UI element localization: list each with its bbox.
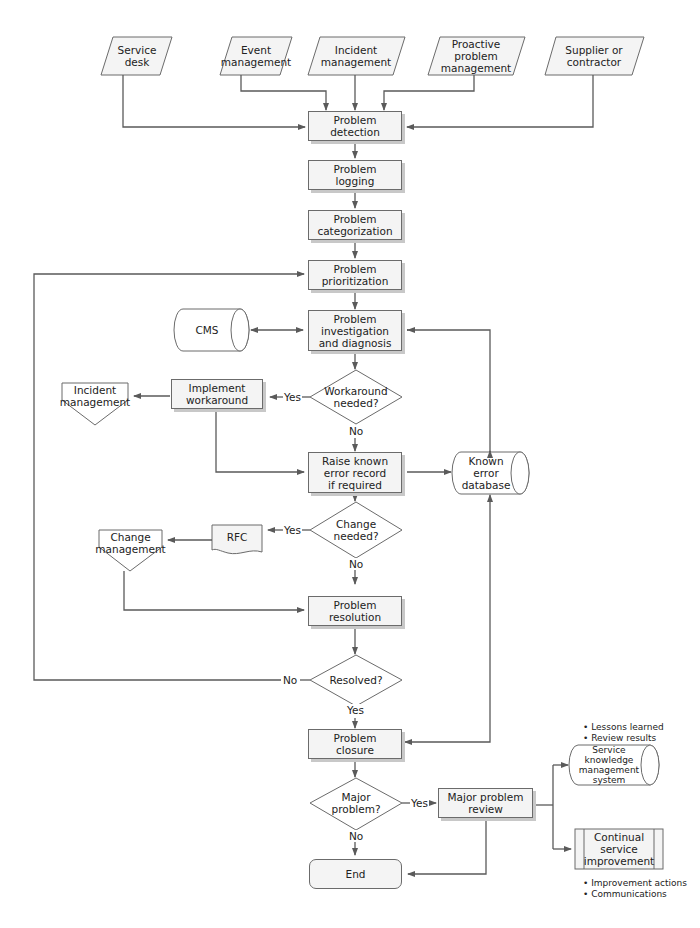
branch-no-change: No: [348, 558, 364, 570]
process-problem-investigation[interactable]: Problem investigation and diagnosis: [308, 310, 402, 351]
branch-yes-resolved: Yes: [346, 704, 365, 716]
document-rfc[interactable]: RFC: [212, 527, 262, 547]
offpage-change-management[interactable]: Change management: [96, 531, 165, 555]
branch-yes-change: Yes: [283, 524, 302, 536]
branch-no-major: No: [348, 830, 364, 842]
predefined-continual-service-improvement[interactable]: Continual service improvement: [584, 829, 654, 869]
branch-no-resolved: No: [282, 674, 298, 686]
process-major-problem-review[interactable]: Major problem review: [438, 788, 533, 818]
input-service-desk: Service desk: [104, 37, 170, 75]
decision-resolved[interactable]: Resolved?: [312, 674, 400, 686]
process-problem-logging[interactable]: Problem logging: [308, 160, 402, 190]
problem-management-flowchart: Service desk Event management Incident m…: [0, 0, 700, 928]
decision-change-needed[interactable]: Change needed?: [312, 518, 400, 542]
terminal-end[interactable]: End: [309, 859, 402, 889]
branch-yes-major: Yes: [410, 797, 429, 809]
input-event-management: Event management: [222, 37, 290, 75]
skms-notes: • Lessons learned • Review results: [583, 722, 664, 744]
branch-no-workaround: No: [348, 425, 364, 437]
process-problem-categorization[interactable]: Problem categorization: [308, 210, 402, 240]
decision-workaround-needed[interactable]: Workaround needed?: [312, 385, 400, 409]
process-problem-resolution[interactable]: Problem resolution: [308, 596, 402, 626]
process-implement-workaround[interactable]: Implement workaround: [171, 379, 263, 409]
datastore-known-error-database[interactable]: Known error database: [455, 452, 517, 494]
process-raise-known-error[interactable]: Raise known error record if required: [308, 452, 402, 493]
datastore-service-knowledge-management-system[interactable]: Service knowledge management system: [572, 745, 646, 785]
process-problem-prioritization[interactable]: Problem prioritization: [308, 260, 402, 290]
process-problem-detection[interactable]: Problem detection: [308, 111, 402, 141]
branch-yes-workaround: Yes: [283, 391, 302, 403]
input-proactive-problem-management: Proactive problem management: [430, 37, 522, 75]
offpage-incident-management[interactable]: Incident management: [62, 384, 128, 408]
datastore-cms[interactable]: CMS: [178, 309, 236, 351]
input-incident-management: Incident management: [311, 37, 401, 75]
csi-notes: • Improvement actions • Communications: [583, 878, 687, 900]
decision-major-problem[interactable]: Major problem?: [312, 791, 400, 815]
input-supplier-or-contractor: Supplier or contractor: [548, 37, 640, 75]
process-problem-closure[interactable]: Problem closure: [308, 729, 402, 759]
